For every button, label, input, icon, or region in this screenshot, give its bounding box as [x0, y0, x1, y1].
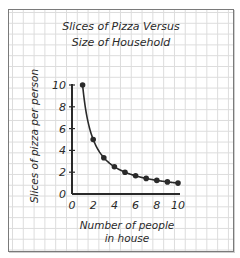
chart: Slices of Pizza Versus Size of Household… [0, 0, 240, 258]
chart-title-line-1: Slices of Pizza Versus [62, 20, 180, 33]
y-tick-label: 4 [59, 144, 66, 157]
x-tick-label: 8 [153, 199, 160, 212]
data-point [165, 179, 171, 185]
x-tick-label: 4 [111, 199, 118, 212]
x-axis-label-line-1: Number of people [80, 219, 175, 231]
data-point [175, 180, 181, 186]
x-tick-label: 10 [171, 199, 185, 212]
data-point [112, 164, 118, 170]
x-axis-label-line-2: in house [105, 232, 150, 244]
y-tick-label: 8 [59, 101, 66, 114]
data-point [80, 82, 86, 88]
y-tick-label: 2 [59, 166, 66, 179]
x-tick-label: 2 [90, 199, 97, 212]
data-point [101, 155, 107, 161]
x-tick-label: 0 [69, 199, 76, 212]
data-point [143, 176, 149, 182]
x-tick-label: 6 [132, 199, 139, 212]
chart-title-line-2: Size of Household [72, 36, 171, 49]
y-tick-label: 0 [59, 188, 66, 201]
y-tick-label: 6 [59, 123, 66, 136]
y-tick-label: 10 [52, 79, 66, 92]
y-axis-label: Slices of pizza per person [28, 69, 40, 203]
data-point [122, 169, 128, 175]
data-point [90, 137, 96, 143]
data-point [133, 173, 139, 179]
data-line [83, 85, 178, 183]
data-point [154, 178, 160, 184]
data-points [80, 82, 181, 186]
axes [72, 84, 180, 194]
